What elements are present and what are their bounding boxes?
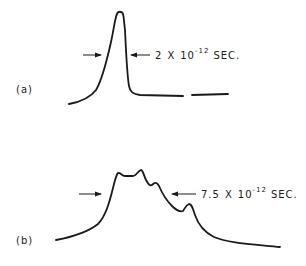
arrowhead-right-b [171, 192, 178, 197]
panel-b: 7.5X10-12SEC. (b) [16, 170, 298, 247]
arrowhead-left-b [95, 192, 102, 197]
arrowhead-right-a [130, 53, 137, 58]
pulse-curve-a [69, 12, 183, 104]
fwhm-label-b: 7.5X10-12SEC. [201, 186, 298, 200]
panel-a: 2X10-12SEC. (a) [16, 12, 240, 104]
pulse-curve-b [56, 170, 280, 247]
fwhm-label-a: 2X10-12SEC. [155, 47, 240, 61]
panel-label-a: (a) [16, 84, 33, 95]
arrowhead-left-a [95, 53, 102, 58]
figure-canvas: 2X10-12SEC. (a) 7.5X10-12SEC. (b) [0, 0, 306, 266]
pulse-tail-a [192, 94, 228, 95]
panel-label-b: (b) [16, 235, 33, 246]
